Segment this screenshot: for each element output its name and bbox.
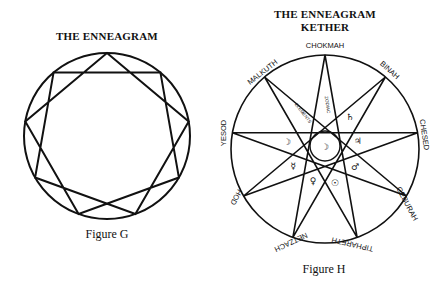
enneagram-diagrams: CHOKMAH BINAH CHESED GEBURAH TIPHARETH N… bbox=[0, 0, 448, 294]
label-elements: ELEMENTS bbox=[294, 102, 313, 124]
venus-icon: ♀ bbox=[310, 176, 317, 186]
label-netzach: NETZACH bbox=[273, 231, 309, 254]
figure-h-inner-labels: ELEMENTS ZODIAC ♄ ♃ ♂ ☉ ♀ ☿ ☽ ☽ bbox=[283, 96, 362, 188]
label-binah: BINAH bbox=[378, 59, 401, 81]
label-yesod: YESOD bbox=[219, 119, 228, 146]
label-malkuth: MALKUTH bbox=[246, 57, 280, 86]
label-tiphareth: TIPHARETH bbox=[331, 235, 374, 253]
figure-g-enneagram bbox=[24, 53, 190, 219]
sun-icon: ☉ bbox=[331, 178, 339, 188]
label-chesed: CHESED bbox=[418, 119, 431, 152]
moon-center-icon: ☽ bbox=[321, 142, 329, 152]
mars-icon: ♂ bbox=[351, 162, 359, 172]
label-hod: HOD bbox=[228, 188, 244, 207]
saturn-icon: ♄ bbox=[346, 112, 354, 122]
label-geburah: GEBURAH bbox=[395, 185, 420, 222]
mercury-icon: ☿ bbox=[290, 161, 296, 171]
label-chokmah: CHOKMAH bbox=[306, 41, 344, 50]
moon-left-icon: ☽ bbox=[283, 137, 291, 147]
jupiter-icon: ♃ bbox=[354, 136, 362, 146]
label-zodiac: ZODIAC bbox=[324, 96, 331, 114]
